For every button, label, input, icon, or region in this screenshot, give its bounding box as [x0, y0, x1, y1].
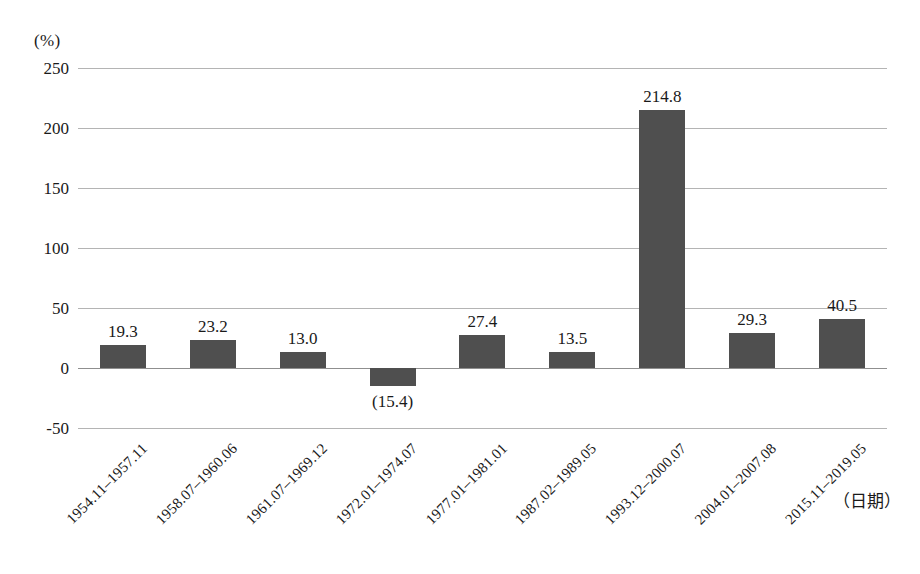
bar-value-label: 13.0 [288, 330, 318, 347]
bar-group: 13.0 [258, 68, 348, 428]
y-axis-tick-label: 0 [61, 359, 70, 379]
bar-value-label: 19.3 [108, 323, 138, 340]
bar-value-label: 13.5 [558, 330, 588, 347]
bars-layer: 19.323.213.0(15.4)27.413.5214.829.340.5 [78, 68, 887, 428]
y-axis-tick-label: 250 [44, 59, 70, 79]
y-axis-tick-label: 100 [44, 239, 70, 259]
y-axis-tick-label: 50 [52, 299, 69, 319]
bar-group: 27.4 [438, 68, 528, 428]
bar-group: 214.8 [617, 68, 707, 428]
x-axis-tick-label: 1958.07–1960.06 [152, 440, 240, 528]
x-axis-tick-label: 1954.11–1957.11 [63, 440, 151, 528]
bar-group: 29.3 [707, 68, 797, 428]
x-axis-tick-label: 1972.01–1974.07 [332, 440, 420, 528]
x-axis-unit-label: （日期） [833, 487, 901, 512]
bar[interactable] [549, 352, 595, 368]
x-axis-tick-label: 1987.02–1989.05 [512, 440, 600, 528]
bar-value-label: 23.2 [198, 318, 228, 335]
bar[interactable] [459, 335, 505, 368]
bar[interactable] [280, 352, 326, 368]
bar-group: 40.5 [797, 68, 887, 428]
y-axis-unit-label: (%) [34, 31, 60, 51]
x-axis-labels: 1954.11–1957.111958.07–1960.061961.07–19… [78, 428, 887, 568]
x-axis-tick-label: 1993.12–2000.07 [602, 440, 690, 528]
bar[interactable] [819, 319, 865, 368]
bar-group: 13.5 [527, 68, 617, 428]
bar-chart: (%) 250200150100500-50 19.323.213.0(15.4… [0, 0, 920, 574]
x-axis-tick-label: 2004.01–2007.08 [692, 440, 780, 528]
bar-value-label: 29.3 [737, 311, 767, 328]
x-axis-tick-label: 1977.01–1981.01 [422, 440, 510, 528]
bar[interactable] [729, 333, 775, 368]
y-axis-tick-label: 200 [44, 119, 70, 139]
bar-group: 23.2 [168, 68, 258, 428]
y-axis-tick-label: 150 [44, 179, 70, 199]
bar[interactable] [370, 368, 416, 386]
bar[interactable] [639, 110, 685, 368]
x-axis-tick-label: 1961.07–1969.12 [242, 440, 330, 528]
bar[interactable] [100, 345, 146, 368]
bar-value-label: (15.4) [372, 393, 413, 410]
plot-area: 250200150100500-50 19.323.213.0(15.4)27.… [78, 68, 887, 428]
x-axis-tick-label: 2015.11–2019.05 [782, 440, 870, 528]
bar-value-label: 214.8 [643, 88, 681, 105]
bar-group: (15.4) [348, 68, 438, 428]
bar-group: 19.3 [78, 68, 168, 428]
bar-value-label: 40.5 [827, 297, 857, 314]
bar[interactable] [190, 340, 236, 368]
bar-value-label: 27.4 [468, 313, 498, 330]
y-axis-tick-label: -50 [46, 419, 69, 439]
